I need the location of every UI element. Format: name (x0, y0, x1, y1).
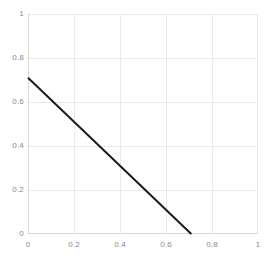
x-tick-label: 0.4 (100, 241, 140, 249)
y-tick-label: 0.6 (0, 98, 24, 106)
chart-container: 1 0.8 0.6 0.4 0.2 0 0 0.2 0.4 0.6 0.8 1 (0, 0, 272, 261)
y-tick-label: 0.8 (0, 54, 24, 62)
y-tick-label: 0.2 (0, 186, 24, 194)
plot-area (28, 14, 258, 234)
y-tick-label: 1 (0, 10, 24, 18)
x-tick-label: 0.8 (192, 241, 232, 249)
y-axis-tick-labels: 1 0.8 0.6 0.4 0.2 0 (0, 14, 24, 234)
data-series-svg (28, 14, 258, 234)
y-tick-label: 0 (0, 230, 24, 238)
x-tick-label: 0 (8, 241, 48, 249)
y-tick-label: 0.4 (0, 142, 24, 150)
x-tick-label: 1 (238, 241, 272, 249)
x-tick-label: 0.2 (54, 241, 94, 249)
line-series (28, 78, 191, 234)
x-tick-label: 0.6 (146, 241, 186, 249)
x-axis-tick-labels: 0 0.2 0.4 0.6 0.8 1 (28, 241, 258, 253)
